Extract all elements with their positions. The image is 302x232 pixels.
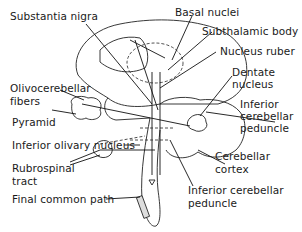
- label-olivocerebellar-fibers-line2: fibers: [10, 95, 40, 107]
- label-pyramid: Pyramid: [12, 116, 56, 128]
- label-inferior-olivary-nucleus: Inferior olivary nucleus: [12, 139, 135, 151]
- label-substantia-nigra: Substantia nigra: [10, 10, 98, 22]
- label-inferior-cerebellar-peduncle-top-line2: cerebellar: [240, 110, 294, 122]
- label-rubrospinal-tract-line1: Rubrospinal: [12, 162, 75, 174]
- label-cerebellar-cortex-line2: cortex: [215, 163, 249, 175]
- label-basal-nuclei: Basal nuclei: [175, 6, 239, 18]
- label-rubrospinal-tract-line2: tract: [12, 175, 37, 187]
- label-inferior-cerebellar-peduncle-bottom-line2: peduncle: [188, 197, 237, 209]
- motor-pathways-diagram: Substantia nigra Basal nuclei Subthalami…: [0, 0, 302, 232]
- label-subthalamic-body: Subthalamic body: [202, 25, 298, 37]
- label-cerebellar-cortex-line1: Cerebellar: [215, 150, 270, 162]
- label-dentate-nucleus-line1: Dentate: [232, 66, 275, 78]
- label-nucleus-ruber: Nucleus ruber: [220, 45, 295, 57]
- label-dentate-nucleus-line2: nucleus: [232, 78, 273, 90]
- label-inferior-cerebellar-peduncle-bottom-line1: Inferior cerebellar: [188, 184, 284, 196]
- label-inferior-cerebellar-peduncle-top-line3: peduncle: [240, 122, 289, 134]
- label-final-common-path: Final common path: [12, 193, 114, 205]
- label-inferior-cerebellar-peduncle-top-line1: Inferior: [240, 98, 279, 110]
- label-olivocerebellar-fibers-line1: Olivocerebellar: [10, 82, 91, 94]
